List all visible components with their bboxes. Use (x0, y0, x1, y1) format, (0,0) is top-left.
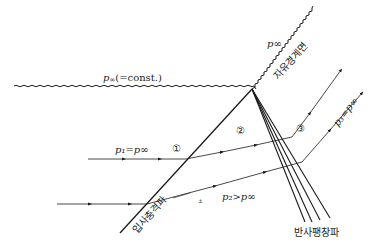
label-reflected-expansion: 반사팽창파 (294, 227, 339, 238)
incident-shock-line (120, 89, 252, 233)
label-p2-gt: p₂>p∞ (222, 191, 256, 202)
label-region-2: ② (236, 125, 245, 136)
label-region-1: ① (172, 143, 181, 154)
free-boundary-horizontal (14, 85, 256, 89)
label-p1-eq: p₁=p∞ (115, 144, 149, 155)
streamline-lower (57, 93, 362, 204)
label-region-3: ③ (296, 123, 305, 134)
expansion-fan (252, 89, 330, 222)
shock-expansion-diagram: p∞ p∞(=const.) 자유경계면 입사충격파 반사팽창파 ① ② ③ p… (0, 0, 372, 249)
label-p3-eq: p₃=p∞ (331, 95, 360, 128)
label-small-mark: ± (198, 197, 203, 204)
label-p-inf-const: p∞(=const.) (103, 72, 162, 84)
label-p-inf-top: p∞ (267, 38, 282, 49)
leader-line (173, 193, 190, 198)
label-incident-shock: 입사충격파 (130, 194, 169, 235)
